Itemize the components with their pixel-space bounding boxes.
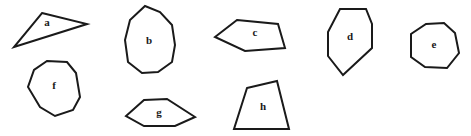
label-e: e <box>432 38 437 50</box>
shape-f: f <box>28 61 80 116</box>
label-b: b <box>146 34 152 46</box>
shape-e: e <box>411 23 459 68</box>
label-d: d <box>347 30 353 42</box>
heptagon-d <box>328 9 372 75</box>
label-c: c <box>253 26 258 38</box>
label-f: f <box>52 79 56 91</box>
shape-g: g <box>126 99 195 126</box>
label-g: g <box>156 106 162 118</box>
figure-svg: a b c d e f g h <box>0 0 471 136</box>
triangle-a <box>14 13 87 47</box>
shape-h: h <box>234 81 289 129</box>
label-a: a <box>44 16 50 28</box>
label-h: h <box>260 100 266 112</box>
polygon-figure: a b c d e f g h <box>0 0 471 136</box>
shape-c: c <box>215 20 285 51</box>
shape-a: a <box>14 13 87 47</box>
pentagon-c <box>215 20 285 51</box>
shape-d: d <box>328 9 372 75</box>
shape-b: b <box>125 6 175 73</box>
